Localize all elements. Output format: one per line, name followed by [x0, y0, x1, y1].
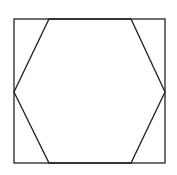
hexagon-outline: [14, 19, 165, 163]
diagram-canvas: [0, 0, 177, 175]
square-outline: [14, 19, 165, 163]
